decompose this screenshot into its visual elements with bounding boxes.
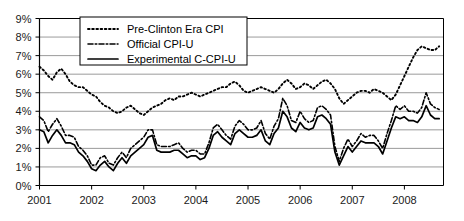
x-tick-label: 2007 xyxy=(340,194,364,206)
x-axis-tick-labels: 20012002200320042005200620072008 xyxy=(27,194,416,206)
series-experimental-c-cpi-u xyxy=(40,106,440,171)
y-tick-label: 3% xyxy=(16,124,32,136)
x-tick-label: 2005 xyxy=(236,194,260,206)
y-tick-label: 6% xyxy=(16,68,32,80)
y-tick-label: 2% xyxy=(16,142,32,154)
y-tick-label: 4% xyxy=(16,105,32,117)
y-tick-label: 7% xyxy=(16,50,32,62)
cpi-line-chart: 0%1%2%3%4%5%6%7%8%9% 2001200220032004200… xyxy=(0,0,464,221)
y-tick-label: 9% xyxy=(16,13,32,25)
y-tick-label: 0% xyxy=(16,180,32,192)
legend-item-label: Experimental C-CPI-U xyxy=(127,53,236,65)
chart-canvas: 0%1%2%3%4%5%6%7%8%9% 2001200220032004200… xyxy=(0,0,464,221)
y-tick-label: 1% xyxy=(16,161,32,173)
x-tick-label: 2002 xyxy=(79,194,103,206)
x-tick-label: 2003 xyxy=(132,194,156,206)
y-tick-label: 5% xyxy=(16,87,32,99)
x-tick-label: 2008 xyxy=(392,194,416,206)
legend-item-label: Official CPI-U xyxy=(127,38,193,50)
y-tick-label: 8% xyxy=(16,31,32,43)
legend-item-label: Pre-Clinton Era CPI xyxy=(127,23,224,35)
chart-legend: Pre-Clinton Era CPIOfficial CPI-UExperim… xyxy=(80,17,247,65)
x-tick-label: 2006 xyxy=(288,194,312,206)
x-tick-label: 2001 xyxy=(27,194,51,206)
x-axis-tickmarks xyxy=(40,186,405,190)
y-axis-tick-labels: 0%1%2%3%4%5%6%7%8%9% xyxy=(16,13,32,192)
series-official-cpi-u xyxy=(40,93,440,165)
x-tick-label: 2004 xyxy=(184,194,208,206)
